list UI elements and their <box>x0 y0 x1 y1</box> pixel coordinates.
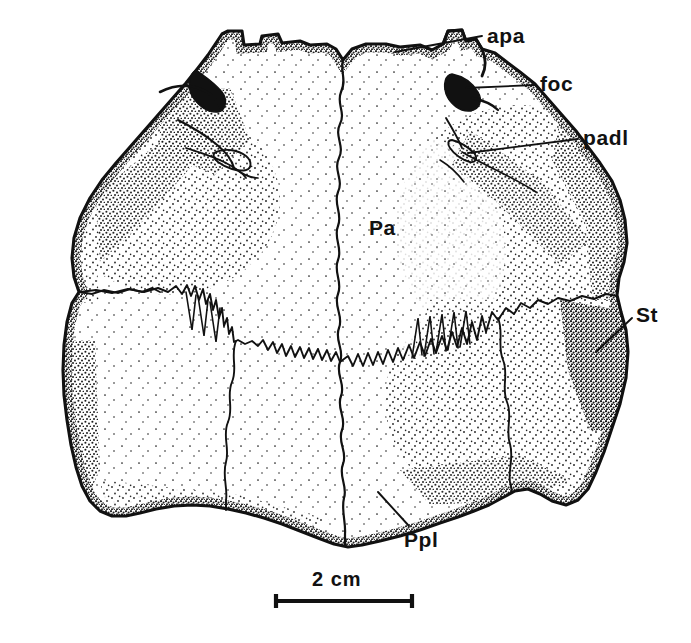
label-apa: apa <box>487 24 525 48</box>
label-foc: foc <box>540 72 573 96</box>
label-ppl: Ppl <box>404 528 438 552</box>
scale-bar <box>275 594 413 608</box>
figure-panel: apa foc padl Pa St Ppl 2 cm <box>0 0 691 643</box>
scale-bar-label: 2 cm <box>312 568 362 591</box>
specimen-illustration <box>0 0 691 643</box>
label-pa: Pa <box>369 216 396 240</box>
label-padl: padl <box>583 126 629 150</box>
label-st: St <box>636 303 658 327</box>
